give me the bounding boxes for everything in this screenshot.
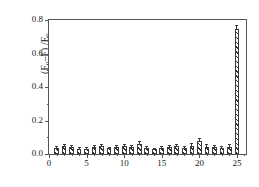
error-bar-cap <box>63 144 66 145</box>
bar <box>174 146 179 154</box>
bar <box>235 29 240 154</box>
x-minor-tick <box>192 154 193 156</box>
bar <box>122 146 127 154</box>
bar <box>212 147 217 154</box>
error-bar-cap <box>78 147 81 148</box>
y-minor-tick <box>47 137 49 138</box>
error-bar <box>146 147 147 148</box>
x-minor-tick <box>147 154 148 156</box>
error-bar-cap <box>93 145 96 146</box>
x-minor-tick <box>222 154 223 156</box>
x-minor-tick <box>117 154 118 156</box>
x-tick-label: 20 <box>185 158 213 168</box>
bar <box>227 147 232 154</box>
y-tick <box>45 54 49 55</box>
error-bar-cap <box>123 144 126 145</box>
x-tick-label: 10 <box>110 158 138 168</box>
x-minor-tick <box>169 154 170 156</box>
error-bar-cap <box>183 146 186 147</box>
x-minor-tick <box>154 154 155 156</box>
error-bar <box>94 146 95 147</box>
x-tick-label: 5 <box>73 158 101 168</box>
x-tick-label: 15 <box>148 158 176 168</box>
error-bar-cap <box>160 146 163 147</box>
y-tick <box>45 87 49 88</box>
bar <box>129 147 134 154</box>
error-bar-cap <box>55 146 58 147</box>
x-minor-tick <box>94 154 95 156</box>
error-bar-cap <box>130 145 133 146</box>
x-minor-tick <box>207 154 208 156</box>
error-bar <box>169 146 170 147</box>
bar <box>99 146 104 154</box>
error-bar-cap <box>228 144 231 145</box>
bar <box>190 146 195 154</box>
error-bar <box>64 145 65 146</box>
bar <box>69 147 74 154</box>
x-tick-label: 0 <box>35 158 63 168</box>
error-bar <box>154 149 155 150</box>
error-bar <box>206 145 207 146</box>
bar <box>167 147 172 154</box>
error-bar <box>161 147 162 148</box>
error-bar-cap <box>115 145 118 146</box>
x-minor-tick <box>177 154 178 156</box>
x-minor-tick <box>64 154 65 156</box>
y-tick-label: 0.2 <box>10 115 43 125</box>
error-bar <box>199 139 200 141</box>
error-bar <box>236 26 237 30</box>
bar <box>197 141 202 154</box>
error-bar <box>86 148 87 149</box>
error-bar <box>56 147 57 148</box>
error-bar-cap <box>175 144 178 145</box>
error-bar-cap <box>145 146 148 147</box>
y-tick <box>45 121 49 122</box>
error-bar <box>229 145 230 146</box>
error-bar <box>79 148 80 149</box>
error-bar-cap <box>235 25 238 26</box>
x-minor-tick <box>109 154 110 156</box>
error-bar-cap <box>70 145 73 146</box>
error-bar <box>176 145 177 146</box>
x-minor-tick <box>57 154 58 156</box>
chart-figure: (F0–F) /F0 0510152025 0.00.20.40.60.8 <box>0 0 259 187</box>
error-bar <box>184 147 185 148</box>
error-bar <box>131 146 132 147</box>
error-bar <box>71 146 72 147</box>
error-bar <box>214 146 215 147</box>
y-minor-tick <box>47 37 49 38</box>
plot-area <box>49 20 246 154</box>
error-bar <box>116 146 117 147</box>
x-minor-tick <box>244 154 245 156</box>
error-bar <box>191 144 192 145</box>
bar <box>205 147 210 154</box>
x-tick-label: 25 <box>223 158 251 168</box>
bar <box>92 147 97 154</box>
error-bar-cap <box>190 143 193 144</box>
error-bar-cap <box>220 146 223 147</box>
x-minor-tick <box>79 154 80 156</box>
error-bar <box>101 145 102 146</box>
error-bar <box>221 147 222 148</box>
plot-frame <box>48 19 247 155</box>
y-tick-label: 0.0 <box>10 148 43 158</box>
x-minor-tick <box>72 154 73 156</box>
error-bar <box>109 148 110 149</box>
x-minor-tick <box>139 154 140 156</box>
error-bar-cap <box>205 144 208 145</box>
error-bar-cap <box>108 147 111 148</box>
error-bar <box>139 142 140 144</box>
x-minor-tick <box>214 154 215 156</box>
y-minor-tick <box>47 70 49 71</box>
error-bar-cap <box>138 141 141 142</box>
error-bar-cap <box>153 148 156 149</box>
y-tick-label: 0.6 <box>10 48 43 58</box>
y-tick-label: 0.4 <box>10 81 43 91</box>
y-minor-tick <box>47 104 49 105</box>
y-tick <box>45 20 49 21</box>
x-minor-tick <box>229 154 230 156</box>
x-minor-tick <box>132 154 133 156</box>
x-minor-tick <box>102 154 103 156</box>
y-tick-label: 0.8 <box>10 14 43 24</box>
bar <box>62 146 67 154</box>
